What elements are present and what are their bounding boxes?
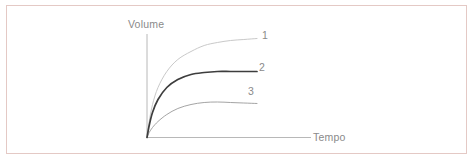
series-group — [147, 39, 257, 138]
series-curve-2 — [147, 71, 257, 137]
x-axis-title: Tempo — [313, 131, 346, 143]
y-axis-title: Volume — [128, 18, 164, 30]
series-curve-1 — [147, 39, 257, 138]
axes-group — [147, 34, 311, 138]
series-label-3: 3 — [248, 85, 254, 97]
series-label-1: 1 — [262, 29, 268, 41]
chart-plot-area — [0, 0, 475, 167]
series-label-2: 2 — [259, 61, 265, 73]
series-curve-3 — [147, 102, 257, 138]
